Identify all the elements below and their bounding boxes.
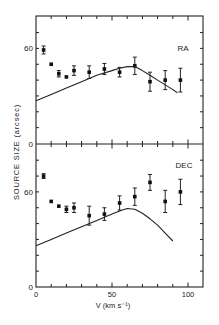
ra-ytick-60: 60 bbox=[24, 44, 33, 53]
dec-ytick-0: 0 bbox=[29, 283, 34, 292]
point-marker bbox=[133, 195, 137, 199]
data-point bbox=[163, 71, 167, 90]
data-point bbox=[72, 66, 76, 76]
data-point bbox=[118, 196, 122, 210]
point-marker bbox=[118, 201, 122, 205]
data-point bbox=[72, 203, 76, 213]
data-point bbox=[178, 68, 182, 92]
dec-panel-label: DEC bbox=[176, 161, 193, 170]
x-axis-label: V (km s⁻¹) bbox=[96, 301, 131, 310]
point-marker bbox=[72, 206, 76, 210]
dec-panel bbox=[36, 174, 182, 246]
point-marker bbox=[57, 72, 61, 76]
point-marker bbox=[179, 190, 183, 194]
data-point bbox=[57, 71, 61, 77]
point-marker bbox=[87, 70, 91, 74]
point-marker bbox=[103, 212, 107, 216]
data-point bbox=[64, 206, 68, 212]
point-marker bbox=[148, 181, 152, 185]
ra-panel-label: RA bbox=[177, 44, 189, 53]
data-point bbox=[148, 174, 152, 190]
point-marker bbox=[148, 80, 152, 84]
data-point bbox=[87, 66, 91, 79]
point-marker bbox=[72, 69, 76, 73]
ra-panel bbox=[36, 46, 182, 101]
point-marker bbox=[163, 200, 167, 204]
data-point bbox=[65, 75, 69, 79]
xtick-label-50: 50 bbox=[108, 290, 116, 299]
point-marker bbox=[65, 208, 69, 212]
data-point bbox=[42, 46, 46, 54]
point-marker bbox=[42, 174, 46, 178]
chart-svg: RA DEC 60 0 60 0 0 50 100 V (km s⁻¹) SOU… bbox=[0, 0, 219, 325]
data-point bbox=[49, 200, 53, 204]
plot-frame bbox=[36, 16, 203, 287]
point-marker bbox=[103, 67, 107, 71]
model-curve bbox=[36, 67, 177, 101]
point-marker bbox=[57, 204, 61, 208]
data-point bbox=[102, 208, 106, 221]
point-marker bbox=[65, 75, 69, 79]
point-marker bbox=[42, 48, 46, 52]
data-point bbox=[133, 188, 137, 205]
axis-ticks bbox=[36, 16, 203, 287]
data-point bbox=[178, 179, 182, 204]
xtick-label-0: 0 bbox=[34, 290, 38, 299]
y-axis-label: SOURCE SIZE (arcsec) bbox=[12, 104, 21, 200]
point-marker bbox=[49, 200, 53, 204]
point-marker bbox=[118, 70, 122, 74]
data-point bbox=[49, 62, 53, 66]
data-point bbox=[133, 57, 137, 74]
ra-ytick-0: 0 bbox=[29, 140, 34, 149]
point-marker bbox=[87, 214, 91, 218]
data-point bbox=[42, 174, 46, 179]
point-marker bbox=[49, 62, 53, 66]
dec-ytick-60: 60 bbox=[24, 188, 33, 197]
figure: RA DEC 60 0 60 0 0 50 100 V (km s⁻¹) SOU… bbox=[0, 0, 219, 325]
xtick-label-100: 100 bbox=[182, 290, 195, 299]
data-point bbox=[57, 204, 61, 208]
point-marker bbox=[163, 78, 167, 82]
point-marker bbox=[179, 78, 183, 82]
data-point bbox=[87, 206, 91, 225]
data-point bbox=[163, 190, 167, 212]
